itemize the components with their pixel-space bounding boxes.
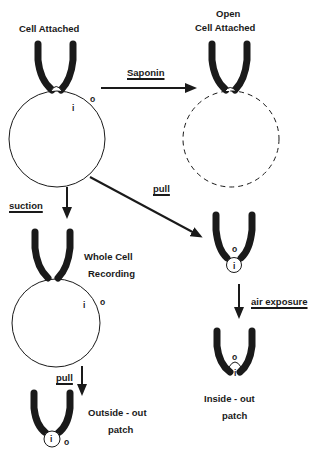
cell-circle: [9, 91, 105, 187]
cell-circle: [12, 279, 100, 367]
pipette-icon: [217, 331, 230, 372]
label-cell-attached: Cell Attached: [19, 22, 79, 35]
label-open-cell-attached-line2: Cell Attached: [195, 21, 255, 34]
label-open-cell-attached-line1: Open: [216, 7, 240, 20]
pipette-icon: [240, 331, 252, 372]
edge-label-saponin: Saponin: [127, 66, 164, 79]
pipette-icon: [35, 232, 48, 278]
marker-inside: i: [72, 103, 74, 113]
open-cell-attached-group: [183, 44, 279, 187]
pipette-icon: [34, 393, 46, 433]
pipette-icon: [58, 232, 70, 278]
marker-outside: o: [90, 94, 95, 104]
arrow-pull-diagonal: [90, 177, 200, 236]
marker-outside: o: [64, 437, 69, 447]
pipette-icon: [212, 44, 226, 90]
label-whole-cell-line2: Recording: [88, 267, 135, 280]
edge-label-pull-diagonal: pull: [153, 182, 170, 195]
edge-label-pull-down: pull: [56, 371, 73, 384]
label-outside-out-line2: patch: [108, 423, 133, 436]
pipette-icon: [241, 215, 252, 258]
marker-inside: i: [233, 261, 235, 271]
marker-inside: i: [83, 300, 85, 310]
label-outside-out-line1: Outside - out: [88, 406, 147, 419]
membrane-patch: [229, 362, 241, 367]
edge-label-air-exposure: air exposure: [251, 295, 308, 308]
edge-label-suction: suction: [9, 199, 43, 212]
pipette-icon: [38, 44, 52, 90]
pipette-icon: [61, 44, 73, 90]
permeabilized-cell-circle: [183, 91, 279, 187]
marker-outside: o: [100, 297, 105, 307]
marker-outside: o: [232, 352, 237, 362]
label-inside-out-line2: patch: [222, 409, 247, 422]
cell-attached-group: [9, 44, 105, 187]
marker-outside: o: [232, 244, 237, 254]
label-whole-cell-line1: Whole Cell: [84, 250, 133, 263]
label-inside-out-line1: Inside - out: [204, 392, 255, 405]
marker-inside: i: [234, 368, 236, 378]
marker-inside: i: [50, 434, 52, 444]
pipette-icon: [235, 44, 247, 90]
pipette-icon: [216, 215, 227, 258]
pipette-icon: [58, 393, 70, 433]
